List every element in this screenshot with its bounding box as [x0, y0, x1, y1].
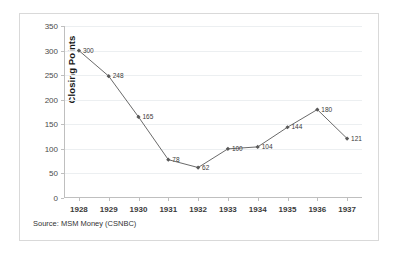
y-tick-label: 0	[54, 194, 58, 203]
series-polyline	[79, 51, 347, 168]
x-tick-label: 1937	[338, 205, 356, 214]
y-tick-label: 150	[45, 120, 58, 129]
x-tick-label: 1935	[279, 205, 297, 214]
y-tick-label: 100	[45, 144, 58, 153]
x-tick-label: 1931	[159, 205, 177, 214]
data-point-label: 300	[83, 46, 94, 53]
x-tick-label: 1936	[308, 205, 326, 214]
data-point-label: 180	[321, 105, 332, 112]
y-tick-mark	[61, 198, 64, 199]
data-point-label: 165	[143, 112, 154, 119]
x-tick-label: 1928	[70, 205, 88, 214]
y-tick-label: 300	[45, 46, 58, 55]
y-tick-label: 50	[49, 169, 58, 178]
x-tick-mark	[228, 198, 229, 201]
source-note: Source: MSM Money (CSNBC)	[33, 219, 136, 228]
x-tick-mark	[347, 198, 348, 201]
x-tick-label: 1934	[249, 205, 267, 214]
x-tick-mark	[168, 198, 169, 201]
y-tick-label: 250	[45, 71, 58, 80]
chart-figure: Closing Points 050100150200250300350 192…	[19, 13, 379, 241]
x-tick-mark	[198, 198, 199, 201]
data-point-label: 78	[172, 155, 179, 162]
data-point-marker	[196, 165, 200, 169]
x-tick-label: 1932	[189, 205, 207, 214]
data-point-label: 121	[351, 134, 362, 141]
x-tick-mark	[79, 198, 80, 201]
data-point-label: 62	[202, 163, 209, 170]
series-line-closing-points	[64, 26, 362, 198]
x-tick-label: 1933	[219, 205, 237, 214]
y-tick-label: 200	[45, 95, 58, 104]
x-tick-mark	[258, 198, 259, 201]
x-tick-mark	[288, 198, 289, 201]
data-point-label: 144	[292, 123, 303, 130]
data-point-label: 248	[113, 72, 124, 79]
x-tick-label: 1929	[100, 205, 118, 214]
data-point-marker	[226, 147, 230, 151]
y-tick-label: 350	[45, 22, 58, 31]
x-tick-mark	[139, 198, 140, 201]
data-point-label: 104	[262, 142, 273, 149]
x-tick-mark	[109, 198, 110, 201]
x-tick-label: 1930	[130, 205, 148, 214]
data-point-label: 100	[232, 144, 243, 151]
x-tick-mark	[317, 198, 318, 201]
plot-area: 050100150200250300350 192819291930193119…	[64, 26, 362, 198]
